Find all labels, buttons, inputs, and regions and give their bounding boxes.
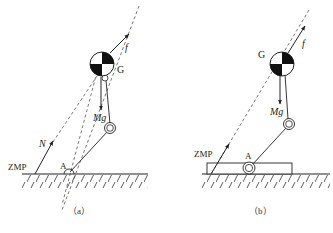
lower-leg (252, 128, 286, 165)
ankle-joint (243, 162, 255, 174)
label-f: f (125, 42, 129, 53)
dashed-line-n (53, 76, 97, 142)
panel-a: f G Mg N ZMP A （a） (8, 6, 148, 216)
diagram-canvas: f G Mg N ZMP A （a） f (0, 0, 333, 233)
upper-leg (106, 80, 110, 124)
ground-hatch (22, 175, 148, 188)
knee-joint (284, 119, 295, 130)
upper-leg (285, 74, 288, 119)
label-mg: Mg (92, 112, 106, 123)
caption-b: （b） (249, 206, 272, 216)
com-symbol (90, 52, 114, 76)
label-zmp: ZMP (194, 149, 213, 159)
panel-b: f G Mg ZMP A （b） (194, 10, 330, 216)
label-a: A (245, 151, 252, 161)
label-a: A (60, 161, 67, 171)
lower-leg (70, 131, 108, 172)
knee-joint (105, 123, 116, 134)
zmp-diagram: f G Mg N ZMP A （a） f (0, 0, 333, 233)
caption-a: （a） (68, 206, 90, 216)
ground-hatch (202, 175, 330, 188)
label-f: f (302, 38, 306, 49)
com-symbol (270, 52, 294, 76)
label-zmp: ZMP (8, 162, 27, 172)
label-n: N (38, 138, 47, 149)
label-g: G (117, 64, 124, 75)
label-mg: Mg (269, 106, 283, 117)
label-g: G (258, 49, 265, 60)
